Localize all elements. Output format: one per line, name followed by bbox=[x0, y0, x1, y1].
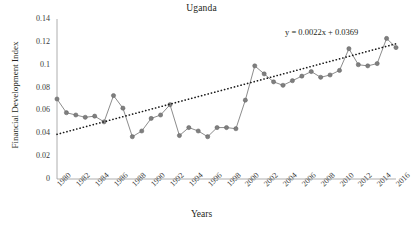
data-point-marker bbox=[253, 64, 257, 68]
series-polyline bbox=[57, 38, 396, 136]
data-point-marker bbox=[187, 125, 191, 129]
data-point-marker bbox=[74, 113, 78, 117]
data-point-marker bbox=[130, 135, 134, 139]
data-series-line bbox=[57, 38, 396, 136]
data-point-marker bbox=[328, 73, 332, 77]
data-point-marker bbox=[300, 74, 304, 78]
data-point-marker bbox=[93, 114, 97, 118]
data-point-marker bbox=[196, 129, 200, 133]
data-point-marker bbox=[281, 83, 285, 87]
data-point-marker bbox=[83, 115, 87, 119]
data-point-marker bbox=[158, 113, 162, 117]
data-point-marker bbox=[243, 98, 247, 102]
data-point-marker bbox=[366, 64, 370, 68]
data-point-marker bbox=[394, 45, 398, 49]
data-point-marker bbox=[319, 75, 323, 79]
data-point-marker bbox=[290, 79, 294, 83]
data-point-marker bbox=[55, 97, 59, 101]
data-point-marker bbox=[177, 133, 181, 137]
data-point-marker bbox=[234, 127, 238, 131]
data-point-marker bbox=[347, 47, 351, 51]
data-point-markers bbox=[55, 36, 398, 138]
data-point-marker bbox=[337, 68, 341, 72]
data-point-marker bbox=[64, 111, 68, 115]
data-point-marker bbox=[262, 72, 266, 76]
data-point-marker bbox=[140, 129, 144, 133]
data-point-marker bbox=[111, 93, 115, 97]
data-point-marker bbox=[309, 69, 313, 73]
data-point-marker bbox=[356, 63, 360, 67]
data-point-marker bbox=[384, 36, 388, 40]
data-point-marker bbox=[149, 116, 153, 120]
data-point-marker bbox=[206, 135, 210, 139]
data-point-marker bbox=[375, 61, 379, 65]
data-point-marker bbox=[224, 125, 228, 129]
trendline bbox=[57, 44, 396, 135]
axis-lines bbox=[57, 19, 396, 179]
data-point-marker bbox=[121, 106, 125, 110]
data-point-marker bbox=[271, 80, 275, 84]
trendline-path bbox=[57, 44, 396, 135]
data-point-marker bbox=[215, 125, 219, 129]
